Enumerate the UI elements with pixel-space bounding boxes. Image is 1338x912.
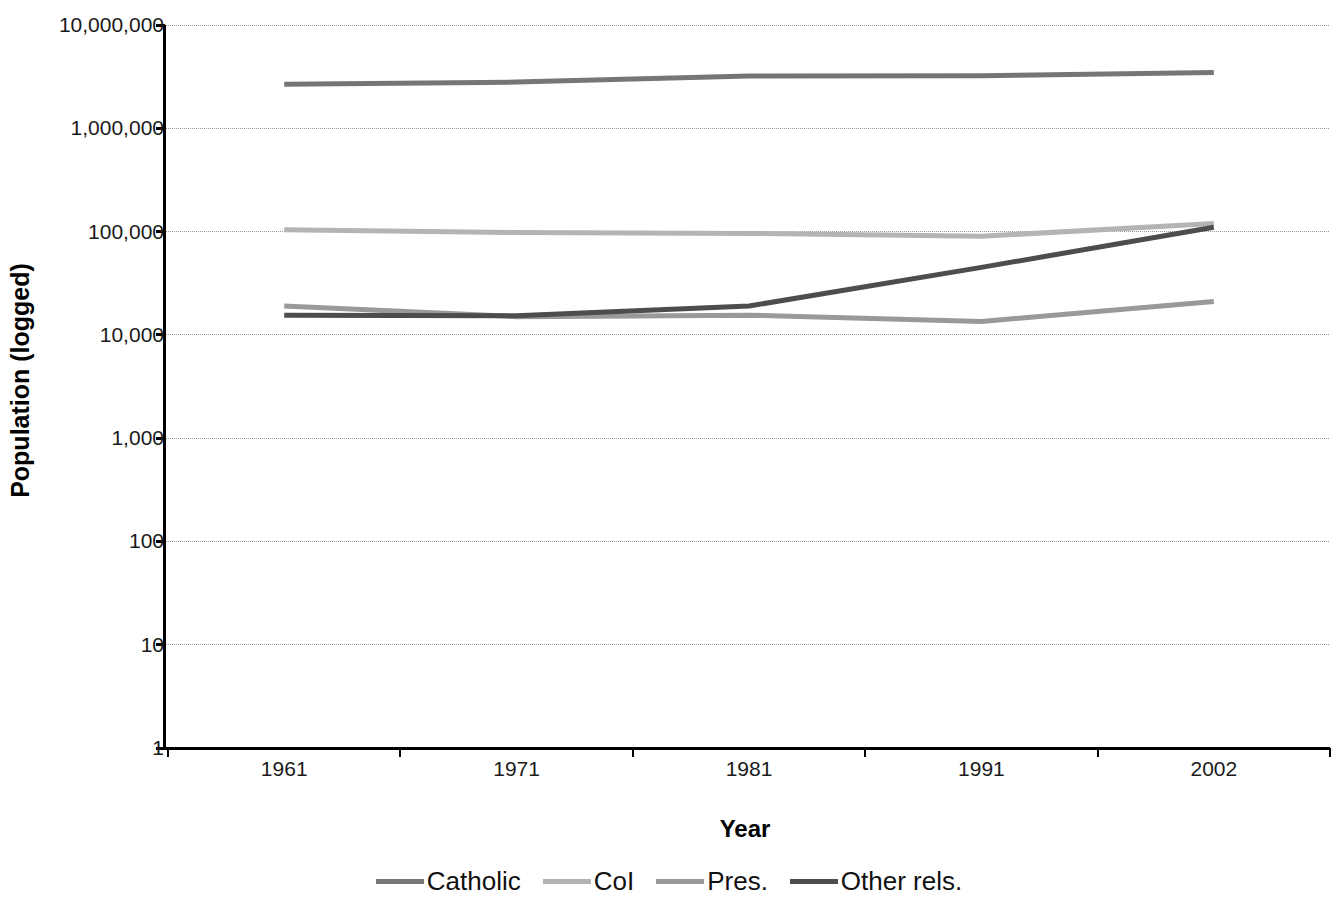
legend-item[interactable]: Pres. [656, 868, 768, 894]
plot-svg [0, 0, 1338, 790]
x-axis-tick-label: 1991 [865, 757, 1097, 797]
legend-line-swatch-icon [790, 879, 838, 884]
y-axis-title: Population (logged) [0, 0, 40, 760]
x-axis-tick-label: 1971 [400, 757, 632, 797]
x-axis-tick-label: 2002 [1098, 757, 1330, 797]
y-axis-title-text: Population (logged) [6, 263, 35, 498]
legend-line-swatch-icon [543, 879, 591, 884]
legend-item[interactable]: Catholic [376, 868, 521, 894]
legend-item-label: Catholic [427, 868, 521, 894]
chart-legend: CatholicCoIPres.Other rels. [0, 868, 1338, 894]
series-line-coi [284, 223, 1214, 236]
legend-item-label: Other rels. [841, 868, 962, 894]
legend-line-swatch-icon [376, 879, 424, 884]
legend-item-label: CoI [594, 868, 634, 894]
series-line-other-rels [284, 227, 1214, 315]
x-axis-title-text: Year [720, 815, 771, 842]
line-chart: 10,000,0001,000,000100,00010,0001,000100… [0, 0, 1338, 912]
legend-item[interactable]: Other rels. [790, 868, 962, 894]
x-axis-tick-label: 1981 [633, 757, 865, 797]
legend-item[interactable]: CoI [543, 868, 634, 894]
x-axis-title: Year [160, 815, 1330, 843]
x-axis-ticks: 19611971198119912002 [168, 757, 1330, 797]
plot-area [0, 0, 1338, 790]
series-line-catholic [284, 73, 1214, 85]
x-axis-tick-label: 1961 [168, 757, 400, 797]
legend-line-swatch-icon [656, 879, 704, 884]
legend-item-label: Pres. [707, 868, 768, 894]
